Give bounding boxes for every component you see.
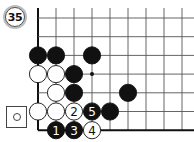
black-stone-icon <box>101 103 118 120</box>
black-stone <box>119 84 136 101</box>
white-stone-icon <box>47 84 64 101</box>
star-point-icon <box>90 72 94 76</box>
move-number: 1 <box>52 124 60 138</box>
white-stone-icon <box>29 66 46 83</box>
black-stone <box>65 66 82 83</box>
black-stone <box>83 47 100 64</box>
white-stone <box>47 66 64 83</box>
white-stone <box>29 103 46 120</box>
white-stone <box>29 66 46 83</box>
move-number: 4 <box>88 124 96 138</box>
white-stone-icon <box>29 103 46 120</box>
star-points <box>90 72 94 76</box>
black-stone-icon <box>65 84 82 101</box>
black-stone-move-3: 3 <box>65 122 82 139</box>
go-board: 25134 <box>0 0 194 142</box>
black-stone-icon <box>47 47 64 64</box>
black-stone-icon <box>29 47 46 64</box>
black-stone <box>101 103 118 120</box>
black-stone-icon <box>83 47 100 64</box>
move-number: 5 <box>88 105 96 119</box>
white-stone-icon <box>47 103 64 120</box>
black-stone <box>29 47 46 64</box>
black-stone <box>65 84 82 101</box>
white-stone-move-4: 4 <box>83 122 100 139</box>
white-stone-move-2: 2 <box>65 103 82 120</box>
move-number: 2 <box>70 105 78 119</box>
black-stone-move-5: 5 <box>83 103 100 120</box>
move-number: 3 <box>70 124 78 138</box>
black-stone-icon <box>65 66 82 83</box>
white-stone <box>47 84 64 101</box>
white-stone <box>47 103 64 120</box>
black-stone <box>47 47 64 64</box>
black-stone-move-1: 1 <box>47 122 64 139</box>
black-stone-icon <box>119 84 136 101</box>
white-stone-icon <box>47 66 64 83</box>
